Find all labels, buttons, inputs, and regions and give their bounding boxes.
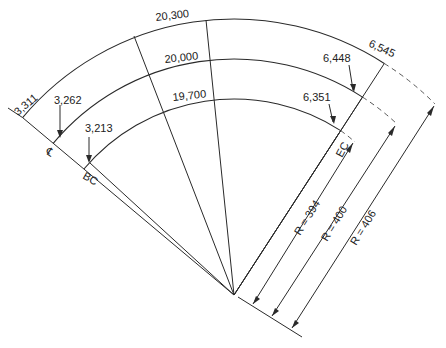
- curve-diagram: 20,300 20,000 19,700 3,311 3,262 3,213 6…: [0, 0, 446, 348]
- arrow-r400-bottom: [272, 308, 279, 316]
- label-ec: EC: [333, 140, 351, 159]
- label-r400: R = 400: [319, 204, 350, 243]
- label-outer-length: 20,300: [155, 7, 190, 23]
- label-3262: 3,262: [54, 94, 82, 106]
- arrow-r406-bottom: [292, 320, 299, 328]
- leader-6351-arrow: [330, 116, 336, 124]
- radial-line-1: [134, 36, 234, 295]
- inner-arc-extension: [341, 131, 355, 142]
- bc-offset-line: [90, 163, 234, 295]
- label-6351: 6,351: [303, 91, 331, 103]
- label-r394: R = 394: [292, 198, 323, 237]
- radial-line-2: [206, 20, 234, 295]
- label-centerline: ℄: [43, 144, 56, 158]
- leader-3213-arrow: [86, 155, 92, 163]
- ec-inner-line: [234, 131, 341, 295]
- label-bc: BC: [81, 169, 100, 187]
- label-3213: 3,213: [85, 122, 113, 134]
- inner-arc: [84, 99, 341, 169]
- arrow-r394-bottom: [253, 296, 260, 304]
- radius-baseline: [238, 297, 302, 337]
- bc-radial-line: [23, 118, 234, 295]
- outer-arc-extension: [384, 64, 435, 105]
- centerline-arc-extension: [363, 97, 398, 124]
- label-6448: 6,448: [323, 52, 351, 64]
- label-r406: R = 406: [348, 208, 379, 247]
- label-inner-length: 19,700: [172, 88, 207, 103]
